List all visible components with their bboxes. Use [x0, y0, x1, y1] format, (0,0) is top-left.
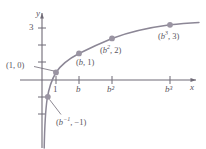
- log-curve: [44, 22, 199, 148]
- y-axis-arrowhead: [40, 13, 44, 19]
- point-b-inv-neg1: [45, 94, 51, 100]
- point-b-1: [76, 51, 82, 57]
- y-axis-label: y: [36, 9, 40, 18]
- x-axis-label: x: [190, 83, 194, 92]
- x-tick-label-1: 1: [53, 85, 58, 94]
- leader-line-b-inv: [50, 100, 62, 115]
- point-label-b-inv-neg1: (b−1, −1): [56, 116, 86, 126]
- x-tick-label-b: b: [76, 85, 81, 94]
- y-tick-label-3: 3: [29, 23, 34, 32]
- point-1-0: [53, 70, 59, 76]
- point-b3-3: [167, 22, 173, 28]
- x-tick-label-b-cubed: b³: [165, 85, 172, 94]
- x-tick-label-b-squared: b²: [107, 85, 114, 94]
- point-label-1-0: (1, 0): [6, 61, 24, 70]
- point-label-b-1: (b, 1): [76, 58, 94, 67]
- leader-line-1-0: [34, 67, 54, 72]
- point-label-b2-2: (b2, 2): [100, 44, 121, 54]
- point-label-b3-3: (b3, 3): [158, 30, 179, 40]
- point-b2-2: [109, 36, 115, 42]
